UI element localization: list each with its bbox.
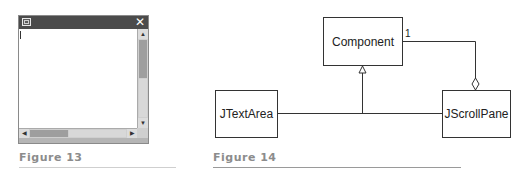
uml-class-jscrollpane: JScrollPane	[442, 90, 511, 138]
figure-14-rule	[213, 167, 461, 168]
uml-class-jtextarea: JTextArea	[215, 90, 278, 138]
class-name-jtextarea: JTextArea	[220, 107, 273, 121]
uml-class-component: Component	[323, 17, 403, 66]
multiplicity-label: 1	[405, 28, 411, 39]
class-name-component: Component	[332, 35, 394, 49]
uml-connectors	[0, 0, 526, 174]
class-name-jscrollpane: JScrollPane	[444, 107, 508, 121]
figure-14-caption: Figure 14	[213, 151, 277, 164]
